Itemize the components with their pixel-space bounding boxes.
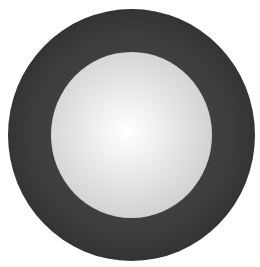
- inner-light-disc: [51, 52, 212, 218]
